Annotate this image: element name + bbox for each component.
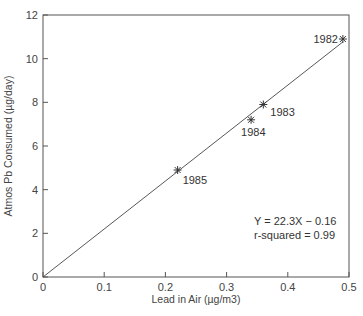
y-tick-label: 8: [32, 96, 38, 108]
y-tick-label: 2: [32, 227, 38, 239]
x-tick-label: 0.1: [97, 281, 112, 293]
data-point-1983: 1983: [259, 101, 294, 118]
y-tick-label: 12: [26, 9, 38, 21]
x-tick-label: 0.5: [341, 281, 356, 293]
equation-annotation: Y = 22.3X − 0.16: [254, 215, 336, 227]
x-axis-title: Lead in Air (µg/m3): [152, 293, 241, 305]
y-axis-ticks: 024681012: [26, 9, 48, 283]
data-points: 1982198319841985: [174, 33, 347, 186]
data-point-1985: 1985: [174, 166, 207, 186]
point-label: 1984: [241, 126, 265, 138]
x-axis-ticks: 00.10.20.30.40.5: [40, 272, 357, 293]
regression-line: [43, 42, 343, 277]
x-tick-label: 0: [40, 281, 46, 293]
y-tick-label: 0: [32, 271, 38, 283]
scatter-chart: 00.10.20.30.40.5 024681012 1982198319841…: [0, 0, 363, 316]
point-label: 1982: [313, 33, 337, 45]
point-label: 1985: [183, 174, 207, 186]
x-tick-label: 0.3: [219, 281, 234, 293]
y-axis-title: Atmos Pb Consumed (µg/day): [2, 76, 14, 217]
x-tick-label: 0.4: [280, 281, 295, 293]
point-label: 1983: [270, 106, 294, 118]
y-tick-label: 10: [26, 53, 38, 65]
y-tick-label: 4: [32, 184, 38, 196]
y-tick-label: 6: [32, 140, 38, 152]
x-tick-label: 0.2: [158, 281, 173, 293]
r-squared-annotation: r-squared = 0.99: [254, 229, 335, 241]
